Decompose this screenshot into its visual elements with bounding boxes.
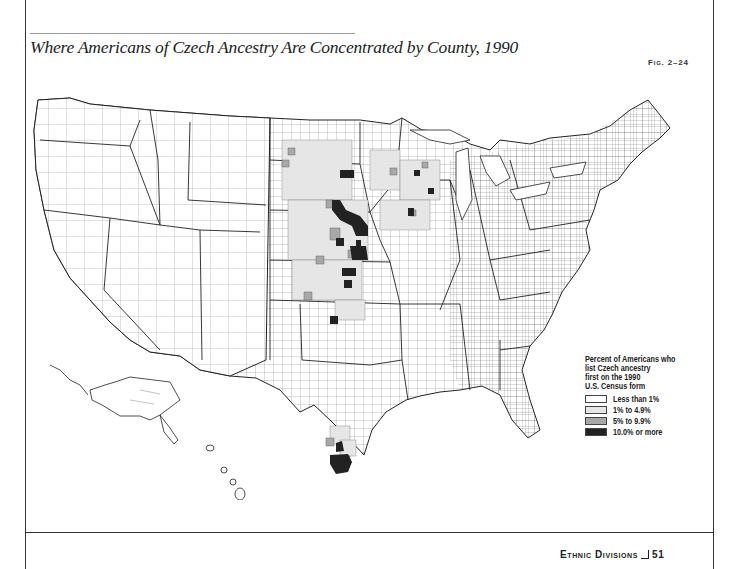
legend-swatch <box>585 417 607 425</box>
legend-title-line: U.S. Census form <box>585 382 704 391</box>
legend-items: Less than 1% 1% to 4.9% 5% to 9.9% 10.0%… <box>585 393 705 437</box>
page-footer: Ethnic Divisions51 <box>560 549 664 560</box>
legend-swatch <box>585 395 607 403</box>
map-title: Where Americans of Czech Ancestry Are Co… <box>30 37 518 58</box>
footer-rule <box>25 532 714 533</box>
legend-item-5-to-9-9: 5% to 9.9% <box>585 415 705 426</box>
page-frame-right <box>713 0 714 569</box>
box-glyph-icon <box>641 550 649 559</box>
map-legend: Percent of Americans who list Czech ance… <box>585 355 705 437</box>
legend-label: 5% to 9.9% <box>613 416 651 426</box>
legend-label: 10.0% or more <box>613 427 662 437</box>
legend-label: 1% to 4.9% <box>613 405 651 415</box>
legend-swatch <box>585 406 607 414</box>
legend-item-10-plus: 10.0% or more <box>585 426 705 437</box>
page-number: 51 <box>652 549 664 560</box>
legend-swatch <box>585 428 607 436</box>
alaska-inset <box>50 365 180 444</box>
title-rule <box>30 33 355 34</box>
footer-section-title: Ethnic Divisions <box>560 549 638 560</box>
legend-label: Less than 1% <box>613 394 659 404</box>
legend-title: Percent of Americans who list Czech ance… <box>585 355 704 391</box>
page-frame-left <box>25 0 26 569</box>
legend-item-1-to-4-9: 1% to 4.9% <box>585 404 705 415</box>
legend-item-less-than-1: Less than 1% <box>585 393 705 404</box>
hawaii-inset <box>206 445 245 500</box>
